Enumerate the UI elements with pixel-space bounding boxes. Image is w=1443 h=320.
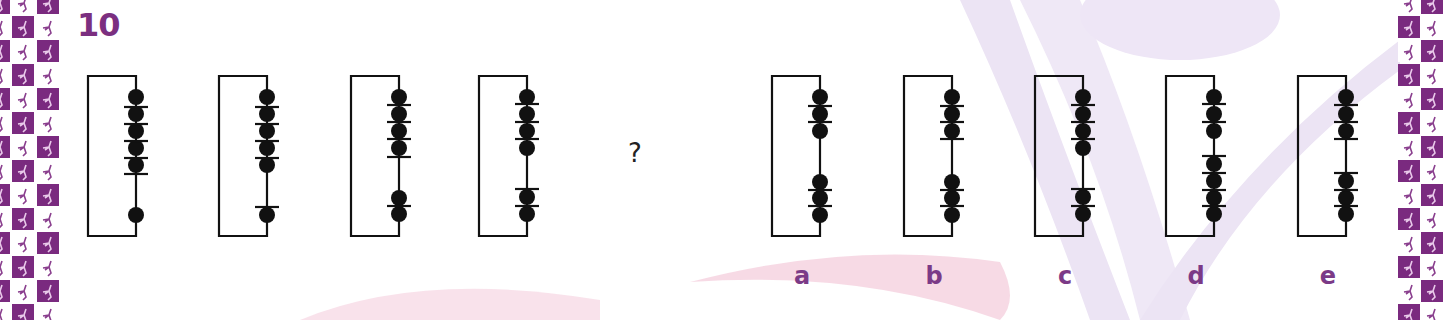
bead: [519, 140, 535, 156]
bead: [812, 190, 828, 206]
option-label-e[interactable]: e: [1308, 262, 1348, 290]
bead: [1206, 173, 1222, 189]
bead: [1206, 156, 1222, 172]
bead: [391, 190, 407, 206]
question-number: 10: [77, 6, 120, 44]
bead: [519, 123, 535, 139]
bead: [1075, 140, 1091, 156]
bead: [812, 89, 828, 105]
bead: [128, 140, 144, 156]
bead: [1338, 106, 1354, 122]
bead: [128, 106, 144, 122]
missing-figure-placeholder: ?: [628, 138, 642, 168]
bead: [391, 106, 407, 122]
bead: [1075, 89, 1091, 105]
left-checker-border: [0, 0, 61, 320]
option-label-b[interactable]: b: [914, 262, 954, 290]
bead: [944, 123, 960, 139]
bead: [812, 207, 828, 223]
sequence-figure-4: [473, 70, 553, 245]
pink-arc-left: [300, 289, 600, 320]
bead: [812, 174, 828, 190]
bead: [391, 140, 407, 156]
option-figure-c[interactable]: [1029, 70, 1109, 245]
bead: [944, 190, 960, 206]
bead: [1075, 106, 1091, 122]
option-label-d[interactable]: d: [1176, 262, 1216, 290]
bead: [1075, 189, 1091, 205]
bead: [128, 123, 144, 139]
bead: [519, 106, 535, 122]
bead: [391, 123, 407, 139]
bead: [1206, 206, 1222, 222]
bead: [259, 123, 275, 139]
bead: [1206, 123, 1222, 139]
option-figure-b[interactable]: [898, 70, 978, 245]
bead: [519, 89, 535, 105]
bead: [944, 89, 960, 105]
lavender-blob: [1080, 0, 1280, 60]
bead: [1075, 123, 1091, 139]
bead: [259, 207, 275, 223]
bead: [391, 206, 407, 222]
bead: [391, 89, 407, 105]
bead: [944, 174, 960, 190]
bead: [259, 157, 275, 173]
right-checker-border: [1398, 0, 1443, 320]
sequence-figure-2: [213, 70, 293, 245]
bead: [259, 89, 275, 105]
option-figure-e[interactable]: [1292, 70, 1372, 245]
bead: [259, 106, 275, 122]
option-label-c[interactable]: c: [1045, 262, 1085, 290]
bead: [944, 207, 960, 223]
bead: [1075, 206, 1091, 222]
option-figure-a[interactable]: [766, 70, 846, 245]
sequence-figure-3: [345, 70, 425, 245]
sequence-figure-1: [82, 70, 162, 245]
option-figure-d[interactable]: [1160, 70, 1240, 245]
bead: [944, 106, 960, 122]
bead: [128, 89, 144, 105]
bead: [812, 123, 828, 139]
bead: [1338, 173, 1354, 189]
bead: [1338, 123, 1354, 139]
bead: [812, 106, 828, 122]
bead: [519, 189, 535, 205]
bead: [1338, 206, 1354, 222]
bead: [1206, 89, 1222, 105]
bead: [128, 157, 144, 173]
pink-arc-right: [690, 254, 1010, 320]
bead: [1206, 106, 1222, 122]
bead: [1206, 190, 1222, 206]
bead: [1338, 190, 1354, 206]
option-label-a[interactable]: a: [782, 262, 822, 290]
bead: [259, 140, 275, 156]
bead: [128, 207, 144, 223]
bead: [1338, 89, 1354, 105]
bead: [519, 206, 535, 222]
